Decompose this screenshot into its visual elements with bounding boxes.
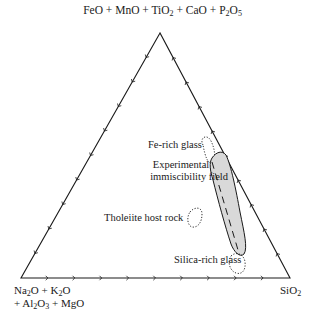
tholeiite-host-rock-field: [188, 208, 202, 227]
experimental-label-line1: Experimental: [134, 159, 228, 171]
silica-rich-glass-label: Silica-rich glass: [174, 254, 241, 266]
experimental-immiscibility-field-label: Experimental immiscibility field: [134, 159, 228, 183]
top-vertex-label: FeO + MnO + TiO2 + CaO + P2O5: [0, 4, 325, 17]
bottom-left-label-line2: + Al2O3 + MgO: [14, 297, 84, 310]
bottom-left-label-line1: Na2O + K2O: [14, 284, 84, 297]
experimental-label-line2: immiscibility field: [134, 171, 228, 183]
ternary-triangle-frame: [21, 33, 290, 278]
tholeiite-host-rock-label: Tholeiite host rock: [104, 212, 183, 224]
bottom-right-vertex-label: SiO2: [280, 284, 301, 297]
fe-rich-glass-label: Fe-rich glass: [148, 139, 202, 151]
bottom-left-vertex-label: Na2O + K2O + Al2O3 + MgO: [14, 284, 84, 310]
